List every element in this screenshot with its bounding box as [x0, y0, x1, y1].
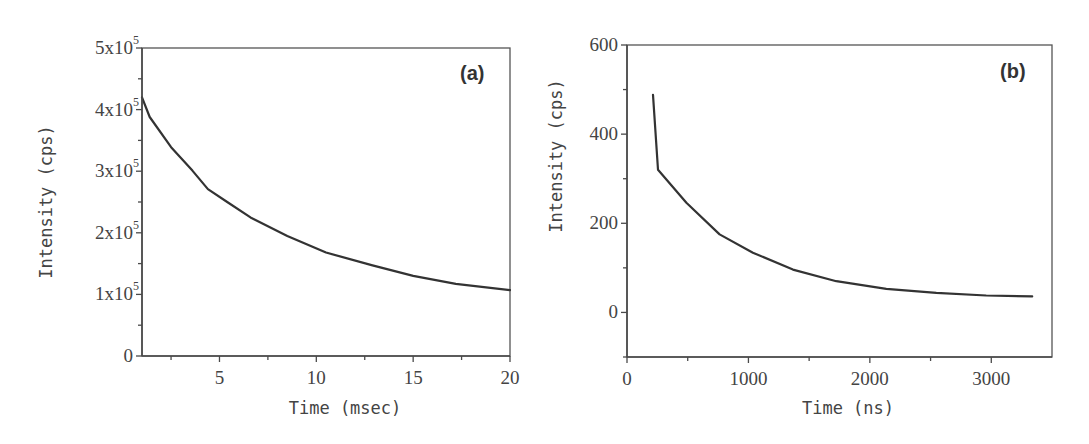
y-axis-title-a: Intensity (cps)	[36, 125, 56, 279]
x-tick-label: 10	[307, 367, 326, 388]
x-tick-label: 5	[215, 367, 225, 388]
y-axis-title-b: Intensity (cps)	[546, 79, 566, 233]
decay-curve-a	[142, 97, 510, 290]
y-axis-ticks-b: 0200400600	[590, 34, 628, 357]
plot-frame-b	[627, 45, 1052, 357]
x-tick-label: 3000	[972, 368, 1010, 389]
y-tick-label: 3x105	[95, 156, 139, 181]
y-tick-label: 400	[590, 123, 619, 144]
chart-panel-b: 0200400600 0100020003000 (b) Time (ns) I…	[546, 34, 1052, 418]
x-axis-title-b: Time (ns)	[802, 398, 894, 418]
y-tick-label: 600	[590, 34, 619, 55]
panel-label-b: (b)	[1000, 60, 1026, 82]
x-tick-label: 1000	[729, 368, 767, 389]
x-tick-label: 15	[404, 367, 423, 388]
x-tick-label: 2000	[851, 368, 889, 389]
y-tick-label: 1x105	[95, 279, 139, 304]
x-tick-label: 0	[622, 368, 632, 389]
panel-label-a: (a)	[460, 62, 484, 84]
y-axis-ticks-a: 01x1052x1053x1054x1055x105	[95, 33, 142, 366]
x-tick-label: 20	[501, 367, 520, 388]
y-tick-label: 0	[609, 301, 619, 322]
decay-curve-b	[653, 95, 1032, 297]
y-tick-label: 4x105	[95, 95, 139, 120]
y-tick-label: 5x105	[95, 33, 139, 58]
figure: 01x1052x1053x1054x1055x105 5101520 (a) T…	[0, 0, 1089, 444]
y-tick-label: 0	[124, 345, 134, 366]
y-tick-label: 200	[590, 212, 619, 233]
y-tick-label: 2x105	[95, 218, 139, 243]
chart-panel-a: 01x1052x1053x1054x1055x105 5101520 (a) T…	[36, 33, 520, 418]
x-axis-ticks-b: 0100020003000	[622, 357, 1010, 389]
plot-frame-a	[142, 48, 510, 356]
x-axis-ticks-a: 5101520	[171, 356, 519, 388]
x-axis-title-a: Time (msec)	[289, 398, 402, 418]
